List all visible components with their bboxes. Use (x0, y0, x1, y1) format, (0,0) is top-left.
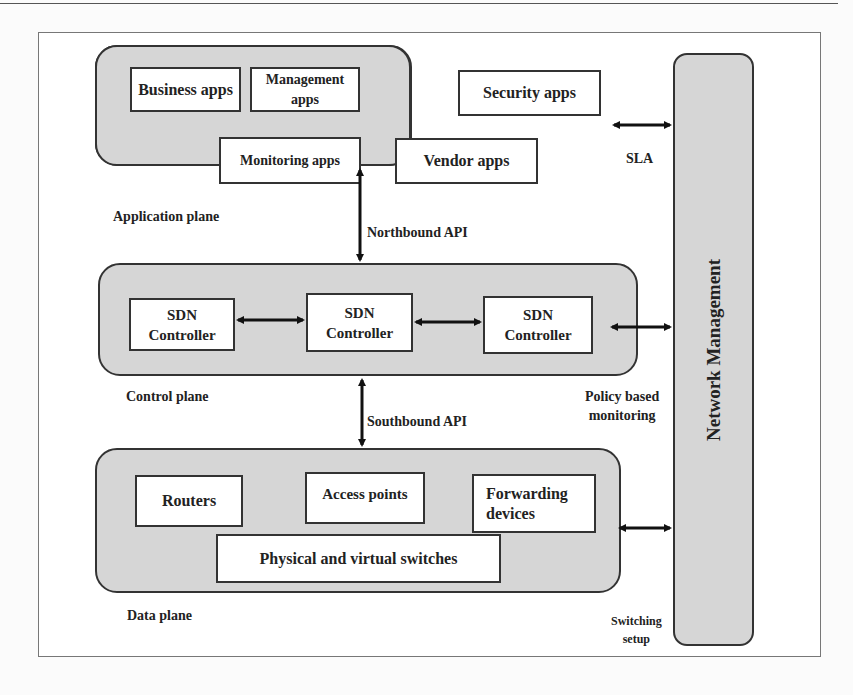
policy-based-monitoring-label: Policy based monitoring (585, 387, 659, 425)
network-management-box: Network Management (673, 53, 754, 646)
sdn-controller-2-line2: Controller (326, 323, 393, 343)
policy-line2: monitoring (585, 406, 659, 425)
sdn-controller-1-line2: Controller (148, 325, 215, 345)
sdn-controller-1-line1: SDN (167, 305, 197, 325)
forwarding-devices-line1: Forwarding (486, 484, 568, 504)
routers-box: Routers (135, 475, 243, 527)
page-top-rule (0, 3, 838, 4)
application-plane-label: Application plane (113, 208, 219, 226)
security-apps-label: Security apps (483, 83, 576, 103)
management-apps-box: Management apps (250, 67, 360, 112)
northbound-api-label: Northbound API (367, 224, 468, 242)
control-plane-label: Control plane (126, 388, 209, 406)
business-apps-label: Business apps (138, 80, 233, 100)
vendor-apps-box: Vendor apps (395, 138, 538, 184)
sdn-controller-2-line1: SDN (344, 303, 374, 323)
vendor-apps-label: Vendor apps (424, 151, 510, 171)
switching-line1: Switching (611, 612, 662, 630)
forwarding-devices-line2: devices (486, 504, 535, 524)
routers-label: Routers (162, 491, 216, 511)
access-points-label: Access points (322, 484, 407, 504)
forwarding-devices-box: Forwarding devices (472, 474, 596, 533)
sdn-controller-3-line1: SDN (523, 305, 553, 325)
management-apps-label: Management apps (252, 70, 358, 110)
business-apps-box: Business apps (130, 67, 241, 112)
sla-label: SLA (626, 150, 653, 168)
switching-setup-label: Switching setup (611, 612, 662, 648)
sdn-controller-3: SDN Controller (483, 296, 593, 354)
network-management-label: Network Management (703, 258, 725, 440)
sdn-controller-3-line2: Controller (504, 325, 571, 345)
access-points-box: Access points (305, 472, 425, 524)
physical-virtual-switches-box: Physical and virtual switches (216, 534, 501, 583)
monitoring-apps-box: Monitoring apps (219, 137, 361, 184)
sdn-controller-1: SDN Controller (129, 298, 235, 351)
policy-line1: Policy based (585, 387, 659, 406)
switching-line2: setup (611, 630, 662, 648)
physical-virtual-switches-label: Physical and virtual switches (260, 549, 458, 569)
monitoring-apps-label: Monitoring apps (240, 151, 340, 171)
southbound-api-label: Southbound API (367, 413, 467, 431)
data-plane-label: Data plane (127, 607, 192, 625)
sdn-controller-2: SDN Controller (306, 293, 413, 352)
security-apps-box: Security apps (458, 70, 601, 116)
